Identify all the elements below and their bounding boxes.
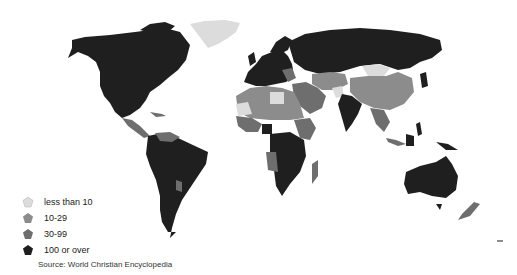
legend-label: 10-29 <box>44 213 67 223</box>
region-british-isles <box>248 52 256 66</box>
region-japan <box>420 72 428 88</box>
region-borneo <box>406 134 414 146</box>
legend-item-100-or-over: 100 or over <box>22 242 93 258</box>
region-central-america <box>122 118 150 138</box>
pentagon-swatch-icon <box>22 228 34 240</box>
region-libya <box>270 92 284 104</box>
region-tasmania <box>436 204 442 210</box>
legend-label: less than 10 <box>44 197 93 207</box>
region-north-america <box>68 28 190 118</box>
region-new-zealand <box>458 202 480 220</box>
region-philippines <box>416 122 422 136</box>
pentagon-swatch-icon <box>22 244 34 256</box>
region-angola <box>266 152 278 172</box>
region-indonesia <box>386 138 406 146</box>
legend-item-30-99: 30-99 <box>22 226 93 242</box>
legend-item-less-than-10: less than 10 <box>22 194 93 210</box>
region-australia <box>404 156 458 198</box>
region-new-guinea <box>436 142 458 150</box>
map-legend: less than 10 10-29 30-99 100 or over <box>22 194 93 258</box>
region-islands <box>497 240 503 242</box>
region-central-asia <box>312 72 348 90</box>
region-caribbean <box>150 112 166 117</box>
legend-label: 30-99 <box>44 229 67 239</box>
region-nigeria <box>262 124 272 134</box>
pentagon-swatch-icon <box>22 212 34 224</box>
legend-item-10-29: 10-29 <box>22 210 93 226</box>
region-scandinavia <box>270 36 292 54</box>
pentagon-swatch-icon <box>22 196 34 208</box>
source-caption: Source: World Christian Encyclopedia <box>38 260 172 269</box>
region-southeast-asia <box>370 108 390 132</box>
region-greenland <box>190 20 240 48</box>
legend-label: 100 or over <box>44 245 90 255</box>
region-paraguay <box>176 180 182 192</box>
region-madagascar <box>312 160 318 184</box>
